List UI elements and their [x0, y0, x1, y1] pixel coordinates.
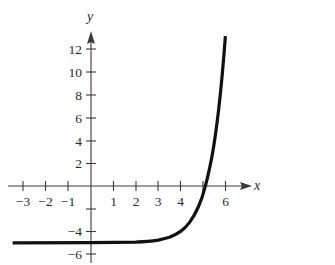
- y-tick-label: 8: [75, 88, 82, 103]
- y-axis-label: y: [85, 9, 94, 24]
- x-tick-label: −3: [16, 194, 31, 209]
- x-axis: x −3 −2 −1 1 2 3 4 6: [8, 178, 261, 209]
- x-tick-label: −1: [61, 194, 75, 209]
- y-tick-label: 12: [69, 42, 83, 57]
- x-tick-label: 4: [177, 194, 184, 209]
- exponential-curve: [13, 36, 226, 243]
- exponential-function-graph: x −3 −2 −1 1 2 3 4 6 y 12: [0, 0, 335, 265]
- x-axis-label: x: [253, 178, 261, 193]
- y-tick-label: 2: [75, 156, 82, 171]
- x-tick-label: 2: [133, 194, 140, 209]
- x-tick-label: −2: [38, 194, 52, 209]
- x-tick-label: 3: [155, 194, 162, 209]
- y-tick-label: 6: [75, 111, 82, 126]
- x-tick-label: 1: [110, 194, 117, 209]
- y-tick-label: −4: [68, 224, 83, 239]
- y-tick-label: −6: [68, 247, 83, 262]
- y-axis: y 12 10 8 6 4 2 −4 −6: [68, 9, 96, 263]
- x-tick-label: 6: [222, 194, 229, 209]
- y-tick-label: 10: [69, 65, 83, 80]
- y-tick-label: 4: [75, 134, 82, 149]
